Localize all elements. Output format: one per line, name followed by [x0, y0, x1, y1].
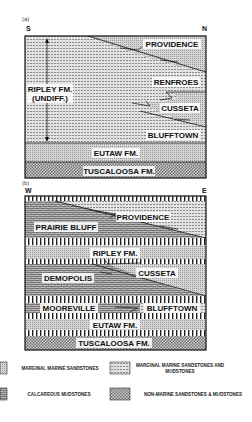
eutaw-label-a: EUTAW FM.	[94, 149, 138, 158]
blufftown-label-b: BLUFFTOWN	[147, 304, 198, 313]
legend-label-marginal-sand-mud: MARGINAL MARINE SANDSTONES AND MUDSTONES	[134, 363, 226, 375]
legend-swatch-non-marine	[110, 388, 130, 400]
renfroes-label-a: RENFROES	[154, 78, 199, 87]
tuscaloosa-label-b: TUSCALOOSA FM.	[78, 339, 150, 348]
legend-swatch-marginal-sand-mud	[110, 362, 130, 374]
ripley-label-a: RIPLEY FM.	[28, 85, 73, 94]
cusseta-label-b: CUSSETA	[138, 269, 176, 278]
cusseta-label-a: CUSSETA	[161, 104, 199, 113]
blufftown-label-a: BLUFFTOWN	[148, 131, 199, 140]
legend-swatch-marginal-sandstone	[0, 362, 7, 374]
legend-swatch-calcareous	[0, 388, 7, 400]
providence-label-b: PROVIDENCE	[117, 213, 171, 222]
legend-label-marginal-sandstone: MARGINAL MARINE SANDSTONES	[12, 366, 108, 372]
panel-b: PROVIDENCE PRAIRIE BLUFF RIPLEY FM. DEMO…	[25, 196, 206, 350]
prairie-bluff-label-b: PRAIRIE BLUFF	[36, 223, 97, 232]
legend-label-calcareous: CALCAREOUS MUDSTONES	[14, 392, 104, 398]
eutaw-label-b: EUTAW FM.	[93, 321, 137, 330]
ripley-label-b: RIPLEY FM.	[93, 249, 138, 258]
mooreville-label-b: MOOREVILLE	[43, 304, 97, 313]
panel-a: PROVIDENCE RENFROES RIPLEY FM. (UNDIFF.)…	[25, 36, 206, 178]
stratigraphic-diagram: PROVIDENCE RENFROES RIPLEY FM. (UNDIFF.)…	[0, 0, 252, 422]
ripley-undiff-label-a: (UNDIFF.)	[32, 94, 68, 103]
tuscaloosa-label-a: TUSCALOOSA FM.	[83, 167, 155, 176]
providence-label-a: PROVIDENCE	[146, 40, 200, 49]
demopolis-label-b: DEMOPOLIS	[44, 274, 93, 283]
legend-label-non-marine: NON-MARINE SANDSTONES & MUDSTONES	[133, 392, 252, 398]
